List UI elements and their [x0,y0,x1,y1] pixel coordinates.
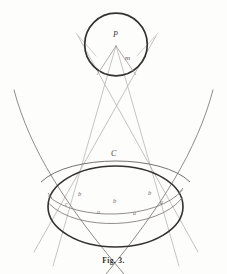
label-lower-arc-mid-a: a [133,210,136,216]
label-angle-mark-m: m [125,55,130,62]
ray-apex-right-line [116,46,179,267]
angle-left-leg [97,46,116,75]
ellipse-top-cap-arc [41,161,190,182]
label-side-right-a: a [160,199,163,205]
label-side-left-c: c [65,201,68,207]
figure-container: P m C b b b a a c a Fig. 3. [0,0,227,274]
label-lower-arc-left-a: a [97,209,100,215]
label-upper-arc-right-b: b [148,190,151,197]
figure-drawing [0,0,227,274]
label-upper-arc-mid-b: b [113,198,116,205]
label-apex-point-C: C [111,150,116,158]
upper-circle [85,13,148,76]
label-center-point-P: P [113,31,118,39]
angle-vertex-lines [97,46,136,75]
main-ellipse [48,166,183,247]
ray-apex-left-line [53,46,116,267]
label-upper-arc-left-b: b [78,191,81,198]
figure-caption: Fig. 3. [0,256,227,265]
